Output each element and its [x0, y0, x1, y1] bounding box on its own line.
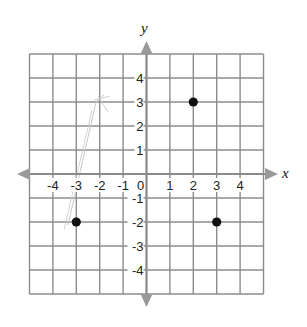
y-tick-label: -2 [132, 215, 144, 230]
x-axis-right-arrow-icon [265, 168, 278, 180]
x-tick-label: -1 [117, 178, 129, 193]
x-tick-label: 4 [236, 178, 243, 193]
x-axis-left-arrow-icon [17, 168, 30, 180]
y-tick-label: -3 [132, 239, 144, 254]
y-tick-label: 2 [136, 119, 143, 134]
coordinate-plane: -4-3-2-1012344321-1-2-3-4 x y [0, 0, 307, 327]
x-tick-label: -4 [47, 178, 59, 193]
x-tick-label: 2 [190, 178, 197, 193]
data-point [212, 217, 221, 226]
y-tick-label: -1 [132, 191, 144, 206]
x-axis-label: x [281, 165, 289, 181]
y-axis-down-arrow-icon [141, 294, 153, 307]
y-tick-label: 3 [136, 95, 143, 110]
x-tick-label: -2 [94, 178, 106, 193]
data-point [189, 97, 198, 106]
pencil-stroke [64, 110, 92, 230]
y-axis-up-arrow-icon [141, 41, 153, 54]
pencil-marks [64, 95, 110, 230]
x-tick-label: 3 [213, 178, 220, 193]
x-tick-label: -3 [71, 178, 83, 193]
y-tick-label: -4 [132, 263, 144, 278]
y-axis-label: y [139, 20, 148, 36]
data-point [72, 217, 81, 226]
y-tick-label: 1 [136, 143, 143, 158]
pencil-stroke [68, 95, 104, 225]
axes [17, 41, 278, 307]
x-tick-label: 1 [166, 178, 173, 193]
y-tick-label: 4 [136, 71, 143, 86]
